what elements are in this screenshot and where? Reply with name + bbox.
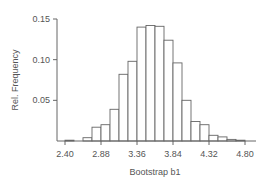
x-tick-label: 4.80 [236,149,254,159]
histogram-bar [119,74,128,141]
y-ticks: 0.050.100.15 [32,14,57,105]
histogram-bar [164,40,173,141]
x-tick-label: 2.88 [92,149,110,159]
x-tick-label: 3.36 [128,149,146,159]
histogram-chart: 0.050.100.15 2.402.883.363.844.324.80 Bo… [0,0,267,186]
histogram-bar [110,109,119,141]
y-axis-label: Rel. Frequency [10,49,20,111]
histogram-bars [65,26,245,142]
histogram-bar [182,100,191,141]
histogram-bar [200,125,209,141]
y-tick-label: 0.10 [32,55,50,65]
histogram-bar [92,127,101,141]
x-ticks: 2.402.883.363.844.324.80 [56,141,254,159]
histogram-bar [209,135,218,141]
x-tick-label: 4.32 [200,149,218,159]
histogram-bar [191,122,200,142]
y-tick-label: 0.05 [32,95,50,105]
y-tick-label: 0.15 [32,14,50,24]
histogram-bar [155,26,164,141]
x-tick-label: 2.40 [56,149,74,159]
histogram-bar [137,27,146,141]
x-tick-label: 3.84 [164,149,182,159]
x-axis-label: Bootstrap b1 [129,167,180,177]
histogram-bar [218,137,227,141]
histogram-bar [128,61,137,141]
histogram-bar [101,125,110,141]
histogram-bar [146,26,155,142]
histogram-bar [173,63,182,141]
